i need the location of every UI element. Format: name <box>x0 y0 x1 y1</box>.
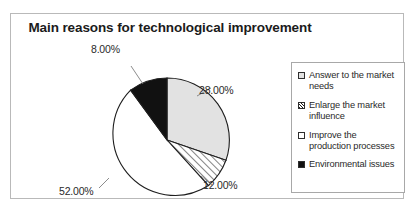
hatched-swatch-icon <box>298 102 305 109</box>
legend-label-line1: Improve the production <box>309 130 356 151</box>
leader-line-52 <box>99 178 109 188</box>
white-swatch-icon <box>298 132 305 139</box>
legend-item-answer-to-the-market-needs: Answer to the market needs <box>298 70 400 93</box>
legend-item-environmental-issues: Environmental issues <box>298 159 400 170</box>
pie-value-label-improve-the-production-processes: 52.00% <box>59 185 93 197</box>
legend-item-enlarge-the-market-influence: Enlarge the market influence <box>298 100 400 123</box>
pie-value-label-environmental-issues: 8.00% <box>91 43 120 55</box>
legend-label-line1: Answer to the market <box>309 70 394 80</box>
legend-item-improve-the-production-processes: Improve the production processes <box>298 130 400 153</box>
pie-plot-area: 28.00% 12.00% 52.00% 8.00% <box>31 40 293 198</box>
pie-value-label-enlarge-the-market-influence: 12.00% <box>203 179 237 191</box>
legend-label-environmental-issues: Environmental issues <box>309 159 394 170</box>
legend-label-line2: needs <box>309 81 334 91</box>
chart-frame: Main reasons for technological improveme… <box>10 13 404 199</box>
legend-label-line1: Enlarge the market <box>309 100 385 110</box>
pie-chart-graphic <box>31 40 293 198</box>
leader-line-8 <box>131 66 143 84</box>
pie-value-label-answer-to-the-market-needs: 28.00% <box>199 84 233 96</box>
legend-label-improve-the-production-processes: Improve the production processes <box>309 130 400 153</box>
legend-label-answer-to-the-market-needs: Answer to the market needs <box>309 70 400 93</box>
legend-label-line2: influence <box>309 111 345 121</box>
chart-legend: Answer to the market needs Enlarge the m… <box>291 62 405 193</box>
legend-label-line1: Environmental issues <box>309 159 394 169</box>
legend-label-line2: processes <box>353 141 394 151</box>
black-swatch-icon <box>298 161 305 168</box>
light-gray-swatch-icon <box>298 72 305 79</box>
legend-label-enlarge-the-market-influence: Enlarge the market influence <box>309 100 400 123</box>
chart-title: Main reasons for technological improveme… <box>25 20 315 35</box>
